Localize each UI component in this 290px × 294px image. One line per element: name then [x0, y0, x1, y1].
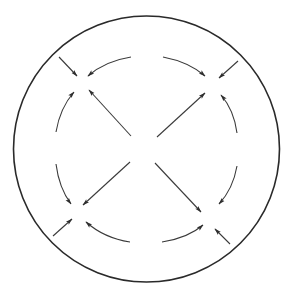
- center-to-lower-left-arrow: [83, 162, 130, 205]
- center-to-upper-left-arrow: [89, 90, 131, 136]
- inward-lower-left-arrow: [53, 219, 72, 236]
- diagonal-arrows: [83, 90, 205, 212]
- top-right-arc-arrow: [163, 57, 205, 76]
- right-lower-arc-arrow: [219, 166, 237, 204]
- outer-circle: [14, 16, 280, 282]
- top-left-arc-arrow: [88, 57, 131, 76]
- flow-diagram: [0, 0, 290, 294]
- bottom-right-arc-arrow: [162, 225, 203, 242]
- bottom-left-arc-arrow: [86, 222, 130, 242]
- right-upper-arc-arrow: [221, 95, 237, 133]
- inward-upper-left-arrow: [59, 57, 77, 76]
- radial-inward-arrows: [53, 57, 238, 244]
- center-to-upper-right-arrow: [157, 93, 205, 137]
- inward-upper-right-arrow: [219, 61, 238, 78]
- arc-arrows: [56, 57, 237, 242]
- left-lower-arc-arrow: [56, 164, 71, 204]
- center-to-lower-right-arrow: [155, 163, 201, 212]
- left-upper-arc-arrow: [56, 92, 74, 132]
- inward-lower-right-arrow: [215, 229, 230, 244]
